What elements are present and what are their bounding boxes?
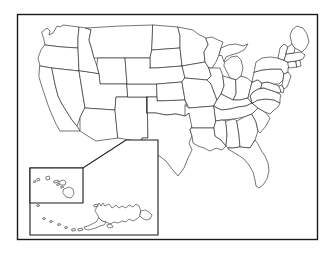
hawaii-kauai xyxy=(37,178,40,181)
state-montana xyxy=(86,25,153,58)
alaska-aleutian-6 xyxy=(43,218,46,220)
state-south-dakota xyxy=(150,48,182,68)
state-kansas xyxy=(157,82,185,101)
us-outline-map-figure: Blank outline map of the United States B… xyxy=(0,0,335,254)
hawaii-oahu xyxy=(46,176,50,180)
alaska-aleutian-2 xyxy=(72,229,76,232)
hawaii-maui xyxy=(60,180,67,185)
hawaii-kahoolawe xyxy=(61,186,64,188)
state-north-dakota xyxy=(152,25,180,50)
map-canvas xyxy=(0,0,335,254)
hawaii-niihau xyxy=(34,181,36,183)
alaska-aleutian-5 xyxy=(50,221,53,223)
alaska-aleutian-4 xyxy=(58,224,61,226)
alaska-island-north xyxy=(37,205,40,207)
hawaii-lanai xyxy=(57,184,60,186)
hawaii-inset-border xyxy=(30,168,83,203)
state-colorado xyxy=(127,84,157,97)
alaska-aleutian-3 xyxy=(65,227,68,229)
state-washington xyxy=(42,25,79,48)
state-new-mexico xyxy=(115,97,148,142)
state-wyoming xyxy=(97,58,127,84)
